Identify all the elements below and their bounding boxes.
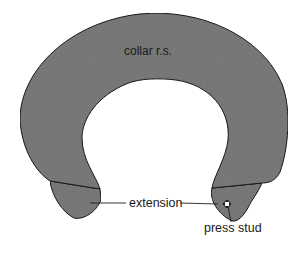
press-stud-label: press stud [204, 222, 262, 235]
right-extension [211, 183, 262, 221]
extension-leader-right [180, 203, 218, 204]
extension-label: extension [129, 197, 183, 210]
collar-body [20, 13, 288, 189]
collar-diagram [0, 0, 304, 256]
collar-label: collar r.s. [124, 45, 172, 57]
